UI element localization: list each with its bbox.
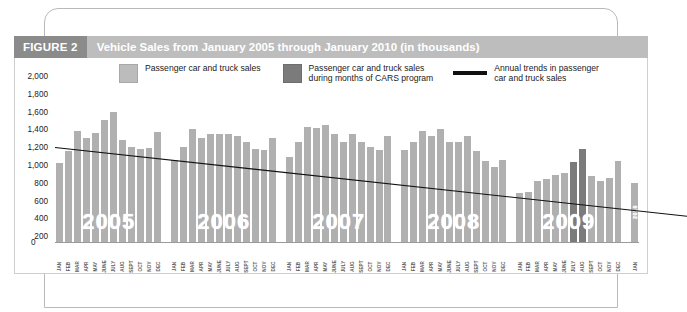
bar-sales[interactable] bbox=[561, 173, 568, 243]
bar-sales[interactable] bbox=[516, 193, 523, 243]
year-group-2006: JANFEBMARAPRMAYJUNEJULYAUGSEPTOCTNOVDEC2… bbox=[170, 98, 277, 243]
bar-sales[interactable] bbox=[437, 129, 444, 243]
bar-sales[interactable] bbox=[597, 181, 604, 243]
bar-sales[interactable] bbox=[525, 192, 532, 243]
legend-item-passenger-sales: Passenger car and truck sales bbox=[119, 62, 261, 83]
bar-sales[interactable] bbox=[631, 183, 638, 243]
y-axis-zero-label: 0 bbox=[31, 238, 36, 247]
bar-sales[interactable] bbox=[119, 140, 126, 243]
bar-sales[interactable] bbox=[261, 150, 268, 243]
bar-sales[interactable] bbox=[349, 134, 356, 243]
bar-sales[interactable] bbox=[340, 142, 347, 244]
bar-slot: JULY bbox=[109, 98, 118, 243]
bar-sales[interactable] bbox=[269, 138, 276, 243]
month-label: DEC bbox=[500, 262, 505, 272]
month-label: FEB bbox=[181, 262, 186, 272]
bar-sales[interactable] bbox=[464, 136, 471, 243]
bar-sales[interactable] bbox=[304, 127, 311, 243]
bar-sales[interactable] bbox=[171, 160, 178, 243]
bar-sales[interactable] bbox=[180, 147, 187, 243]
bar-sales[interactable] bbox=[83, 138, 90, 243]
bar-slot: AUG bbox=[348, 98, 357, 243]
bar-slot: MAR bbox=[533, 98, 542, 243]
bar-sales[interactable] bbox=[225, 134, 232, 243]
bar-sales[interactable] bbox=[101, 120, 108, 243]
bar-slot: FEB bbox=[409, 98, 418, 243]
bar-sales[interactable] bbox=[322, 125, 329, 243]
bar-sales[interactable] bbox=[56, 163, 63, 243]
bar-sales[interactable] bbox=[543, 179, 550, 243]
bar-sales[interactable] bbox=[455, 142, 462, 244]
bar-sales[interactable] bbox=[331, 134, 338, 243]
bar-slot: MAY bbox=[206, 98, 215, 243]
bar-sales[interactable] bbox=[92, 133, 99, 243]
bar-sales[interactable] bbox=[428, 136, 435, 243]
bar-sales[interactable] bbox=[154, 132, 161, 243]
bar-sales[interactable] bbox=[552, 175, 559, 243]
bar-sales[interactable] bbox=[198, 138, 205, 243]
bar-sales[interactable] bbox=[234, 136, 241, 243]
month-label: NOV bbox=[607, 261, 612, 271]
bar-sales[interactable] bbox=[189, 129, 196, 243]
y-axis-ticks: 2004006008001,0001,2001,4001,6001,8002,0… bbox=[15, 76, 51, 254]
bar-sales[interactable] bbox=[243, 142, 250, 244]
bar-cars-program[interactable] bbox=[579, 149, 586, 243]
bar-sales[interactable] bbox=[491, 167, 498, 243]
bar-sales[interactable] bbox=[110, 112, 117, 243]
bar-sales[interactable] bbox=[615, 161, 622, 243]
bar-sales[interactable] bbox=[446, 142, 453, 244]
bar-sales[interactable] bbox=[410, 142, 417, 244]
month-label: AUG bbox=[350, 261, 355, 272]
bar-slot: OCT bbox=[366, 98, 375, 243]
bar-slot: SEPT bbox=[587, 98, 596, 243]
bar-sales[interactable] bbox=[137, 149, 144, 243]
bar-sales[interactable] bbox=[207, 134, 214, 243]
bar-sales[interactable] bbox=[534, 181, 541, 243]
bar-slot: JUNE bbox=[560, 98, 569, 243]
bar-slot: APR bbox=[542, 98, 551, 243]
bar-sales[interactable] bbox=[65, 151, 72, 243]
bar-sales[interactable] bbox=[128, 147, 135, 243]
bar-sales[interactable] bbox=[367, 147, 374, 243]
month-label: DEC bbox=[155, 262, 160, 272]
month-label: MAY bbox=[323, 261, 328, 271]
y-axis-tick: 200 bbox=[34, 232, 48, 241]
month-label: OCT bbox=[253, 262, 258, 272]
month-label: SEPT bbox=[474, 260, 479, 272]
chart-panel: Passenger car and truck sales Passenger … bbox=[14, 58, 648, 274]
bar-sales[interactable] bbox=[146, 148, 153, 243]
year-group-2009: JANFEBMARAPRMAYJUNEJULYAUGSEPTOCTNOVDEC2… bbox=[515, 98, 622, 243]
month-label: JUNE bbox=[102, 260, 107, 273]
bar-sales[interactable] bbox=[286, 157, 293, 243]
bar-sales[interactable] bbox=[401, 150, 408, 243]
month-label: FEB bbox=[66, 262, 71, 272]
bar-sales[interactable] bbox=[295, 142, 302, 244]
bar-sales[interactable] bbox=[606, 178, 613, 243]
month-label: JAN bbox=[402, 262, 407, 272]
bar-slot: APR bbox=[427, 98, 436, 243]
month-label: FEB bbox=[296, 262, 301, 272]
month-label: JULY bbox=[226, 261, 231, 273]
bar-sales[interactable] bbox=[482, 161, 489, 243]
bar-cars-program[interactable] bbox=[570, 162, 577, 243]
bar-slot: SEPT bbox=[357, 98, 366, 243]
x-axis-baseline bbox=[55, 242, 639, 244]
bar-sales[interactable] bbox=[588, 176, 595, 243]
bar-sales[interactable] bbox=[384, 136, 391, 243]
bar-sales[interactable] bbox=[419, 131, 426, 243]
bar-sales[interactable] bbox=[376, 150, 383, 243]
bar-sales[interactable] bbox=[216, 134, 223, 243]
bar-sales[interactable] bbox=[473, 151, 480, 243]
bar-slot: SEPT bbox=[127, 98, 136, 243]
month-label: JUNE bbox=[217, 260, 222, 273]
bar-slot: APR bbox=[82, 98, 91, 243]
bar-sales[interactable] bbox=[313, 128, 320, 243]
bar-slot: FEB bbox=[179, 98, 188, 243]
month-label: OCT bbox=[483, 262, 488, 272]
bar-sales[interactable] bbox=[74, 131, 81, 243]
bar-sales[interactable] bbox=[358, 142, 365, 244]
month-label: MAY bbox=[208, 261, 213, 271]
bars-plot-area: JANFEBMARAPRMAYJUNEJULYAUGSEPTOCTNOVDEC2… bbox=[55, 98, 639, 243]
bar-sales[interactable] bbox=[499, 160, 506, 243]
bar-sales[interactable] bbox=[252, 149, 259, 243]
